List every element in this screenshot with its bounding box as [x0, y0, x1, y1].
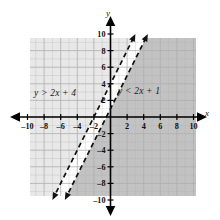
svg-text:–10: –10 [20, 122, 33, 131]
svg-text:–6: –6 [96, 163, 105, 172]
svg-text:10: 10 [189, 122, 197, 131]
y-axis-arrow-bottom [106, 206, 116, 216]
inequality-label-left: y > 2x + 4 [34, 88, 76, 98]
x-axis-label: x [205, 108, 209, 118]
svg-text:–4: –4 [96, 146, 105, 155]
svg-text:10: 10 [97, 30, 105, 39]
svg-text:–10: –10 [92, 196, 105, 205]
svg-text:8: 8 [101, 47, 105, 56]
svg-text:8: 8 [175, 122, 179, 131]
y-axis-label: y [106, 8, 110, 18]
svg-text:–4: –4 [72, 122, 81, 131]
graph-figure: –10–8–6–4–2246810108642–2–4–6–8–10 y > 2… [0, 0, 220, 220]
svg-text:–2: –2 [96, 130, 105, 139]
svg-text:–8: –8 [96, 179, 105, 188]
svg-text:4: 4 [101, 80, 105, 89]
x-axis-arrow-left [10, 112, 20, 122]
svg-text:–6: –6 [56, 122, 65, 131]
coordinate-plane-svg: –10–8–6–4–2246810108642–2–4–6–8–10 [0, 0, 220, 220]
svg-text:6: 6 [158, 122, 162, 131]
svg-text:6: 6 [101, 63, 105, 72]
svg-text:2: 2 [125, 122, 129, 131]
inequality-label-right: y < 2x + 1 [118, 86, 160, 96]
svg-text:4: 4 [142, 122, 146, 131]
svg-text:–8: –8 [39, 122, 48, 131]
